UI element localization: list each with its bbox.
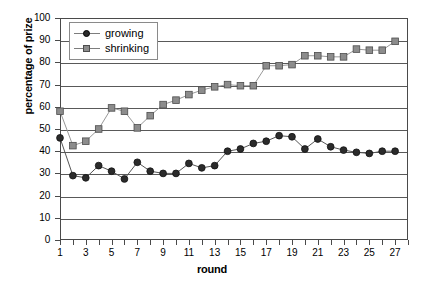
y-tick-label: 80: [39, 57, 50, 67]
x-tick-mark: [73, 240, 74, 245]
x-tick-mark: [292, 240, 293, 245]
x-tick-label: 19: [286, 248, 297, 258]
legend-item-shrinking: shrinking: [74, 41, 149, 56]
x-tick-mark: [395, 240, 396, 245]
x-tick-mark: [176, 240, 177, 245]
x-tick-mark: [279, 240, 280, 245]
x-tick-mark: [344, 240, 345, 245]
x-tick-label: 15: [235, 248, 246, 258]
x-tick-mark: [305, 240, 306, 245]
x-tick-mark: [331, 240, 332, 245]
y-tick-label: 40: [39, 146, 50, 156]
gridline: [61, 219, 407, 220]
chart-container: percentage of prize 01020304050607080901…: [0, 0, 424, 285]
x-tick-mark: [137, 240, 138, 245]
y-axis: 0102030405060708090100: [0, 0, 60, 285]
gridline: [61, 130, 407, 131]
x-tick-mark: [202, 240, 203, 245]
x-tick-mark: [318, 240, 319, 245]
gridline: [61, 152, 407, 153]
x-tick-mark: [99, 240, 100, 245]
x-tick-mark: [189, 240, 190, 245]
gridline: [61, 108, 407, 109]
x-tick-label: 9: [160, 248, 166, 258]
x-tick-label: 7: [135, 248, 141, 258]
x-tick-label: 25: [364, 248, 375, 258]
x-tick-label: 11: [184, 248, 194, 258]
y-tick-label: 90: [39, 35, 50, 45]
x-tick-mark: [240, 240, 241, 245]
x-tick-label: 21: [312, 248, 323, 258]
x-tick-mark: [60, 240, 61, 245]
y-tick-label: 70: [39, 80, 50, 90]
x-tick-label: 13: [209, 248, 220, 258]
x-tick-label: 27: [390, 248, 401, 258]
x-tick-mark: [408, 240, 409, 245]
x-tick-mark: [112, 240, 113, 245]
x-axis-title: round: [0, 263, 424, 275]
y-tick-label: 60: [39, 102, 50, 112]
x-tick-mark: [86, 240, 87, 245]
y-tick-label: 100: [34, 13, 50, 23]
x-tick-label: 5: [109, 248, 115, 258]
legend-label: shrinking: [105, 43, 149, 54]
y-tick-label: 30: [39, 168, 50, 178]
x-tick-mark: [215, 240, 216, 245]
gridline: [61, 174, 407, 175]
x-tick-mark: [150, 240, 151, 245]
x-tick-mark: [228, 240, 229, 245]
legend-label: growing: [105, 28, 144, 39]
x-tick-label: 23: [338, 248, 349, 258]
y-tick-label: 20: [39, 191, 50, 201]
x-tick-mark: [163, 240, 164, 245]
gridline: [61, 86, 407, 87]
x-tick-label: 1: [57, 248, 63, 258]
gridline: [61, 197, 407, 198]
legend-item-growing: growing: [74, 26, 149, 41]
x-tick-mark: [124, 240, 125, 245]
x-tick-label: 3: [83, 248, 89, 258]
y-tick-label: 0: [45, 235, 50, 245]
legend-marker-circle-icon: [74, 28, 100, 39]
y-tick-label: 10: [39, 213, 50, 223]
legend: growing shrinking: [69, 22, 158, 60]
y-tick-label: 50: [39, 124, 50, 134]
x-tick-mark: [266, 240, 267, 245]
x-tick-mark: [356, 240, 357, 245]
x-tick-mark: [382, 240, 383, 245]
x-tick-mark: [369, 240, 370, 245]
x-tick-label: 17: [261, 248, 272, 258]
gridline: [61, 63, 407, 64]
legend-marker-square-icon: [74, 43, 100, 54]
x-tick-mark: [253, 240, 254, 245]
